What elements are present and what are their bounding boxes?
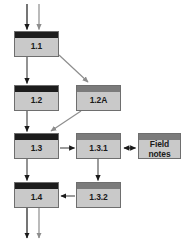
flowchart-canvas: 1.1 1.2 1.2A 1.3 1.3.1 Field notes 1.4 1… xyxy=(0,0,184,247)
node-1-4-label: 1.4 xyxy=(15,189,58,207)
node-field-notes-label: Field notes xyxy=(139,140,180,159)
node-1-2[interactable]: 1.2 xyxy=(14,85,59,111)
node-1-3[interactable]: 1.3 xyxy=(14,133,59,159)
node-1-2-label: 1.2 xyxy=(15,92,58,110)
node-1-2a[interactable]: 1.2A xyxy=(76,85,121,111)
node-1-2a-label: 1.2A xyxy=(77,92,120,110)
node-1-3-2-label: 1.3.2 xyxy=(77,189,120,207)
node-field-notes[interactable]: Field notes xyxy=(138,133,181,159)
node-1-3-1[interactable]: 1.3.1 xyxy=(76,133,121,159)
arrow-1-1-to-1-2a xyxy=(59,55,88,82)
arrow-1-2a-to-1-3 xyxy=(51,111,81,131)
node-1-3-label: 1.3 xyxy=(15,140,58,158)
node-1-4[interactable]: 1.4 xyxy=(14,182,59,208)
field-notes-line-2: notes xyxy=(148,150,170,160)
node-1-3-2[interactable]: 1.3.2 xyxy=(76,182,121,208)
node-1-3-1-label: 1.3.1 xyxy=(77,140,120,158)
node-1-1-label: 1.1 xyxy=(15,38,58,56)
node-1-1[interactable]: 1.1 xyxy=(14,31,59,57)
